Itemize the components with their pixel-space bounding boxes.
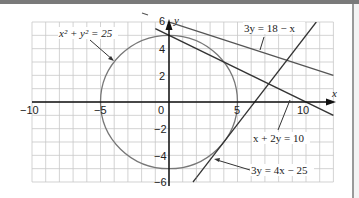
line-3y-18-x-ext [142,13,148,15]
tick-x--10: −10 [20,104,39,116]
label-3y-4x-25: 3y = 4x − 25 [251,164,308,176]
chart: x y −10 −5 0 5 10 6 4 2 −2 −4 −6 x² + y²… [0,0,359,198]
tick-y--6: −6 [154,176,167,188]
tick-x-10: 10 [297,104,309,116]
tick-x-0: 0 [158,104,164,116]
line-3y-4x-25-ext [193,178,196,182]
line-3y-4x-25 [196,22,316,178]
leader-3y-4x-25-arrow-icon [214,158,220,162]
y-axis-arrow-icon [166,19,173,30]
tick-y-2: 2 [159,70,165,82]
tick-x--5: −5 [94,104,107,116]
label-3y-18-x: 3y = 18 − x [244,22,295,34]
x-axis-label: x [331,87,337,99]
label-circle-equation: x² + y² = 25 [58,27,113,39]
tick-y--2: −2 [154,123,167,135]
leader-3y-18-x [260,37,264,50]
tick-y-6: 6 [159,15,165,27]
tick-x-5: 5 [234,104,240,116]
leader-circle [90,40,113,60]
label-x-2y-10: x + 2y = 10 [253,132,304,144]
tick-y-4: 4 [159,43,165,55]
x-axis-arrow-icon [326,99,336,106]
tick-y--4: −4 [154,150,167,162]
y-axis-label: y [173,14,179,26]
